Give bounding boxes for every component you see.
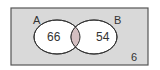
set-a-label: A [33, 14, 41, 26]
outside-value: 6 [131, 51, 137, 63]
venn-diagram: A B 66 54 6 [0, 0, 160, 70]
set-b-label: B [114, 14, 121, 26]
a-only-value: 66 [47, 30, 61, 44]
b-only-value: 54 [96, 30, 110, 44]
